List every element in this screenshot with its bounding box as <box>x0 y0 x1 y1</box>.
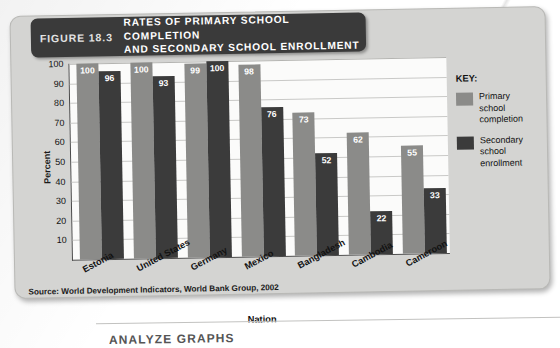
y-axis-tick: 60 <box>41 137 65 147</box>
legend-label: Secondary school enrollment <box>480 134 536 170</box>
bar-value-label: 96 <box>98 73 120 83</box>
legend-item: Primary school completion <box>456 90 535 126</box>
bar[interactable]: 98 <box>238 64 264 256</box>
bar-value-label: 22 <box>370 213 392 223</box>
legend-swatch <box>456 92 473 105</box>
bar-group: 6222 <box>346 58 394 255</box>
bar[interactable]: 73 <box>293 112 318 255</box>
y-axis-tick: 90 <box>40 79 64 89</box>
y-axis-tick-labels: 100908070605040302010 <box>35 64 67 261</box>
bars-layer: 1009610093991009876735262225533 <box>69 57 450 260</box>
bar-group: 7352 <box>292 59 340 256</box>
bar-value-label: 55 <box>401 148 423 158</box>
chart-legend: KEY: Primary school completionSecondary … <box>456 72 536 178</box>
figure-number: FIGURE 18.3 <box>40 31 113 44</box>
bar-value-label: 93 <box>152 78 174 88</box>
y-axis-tick: 30 <box>42 196 66 206</box>
bar-value-label: 98 <box>238 66 260 76</box>
bar-group: 10093 <box>130 62 178 259</box>
bar-value-label: 52 <box>315 155 337 165</box>
legend-items: Primary school completionSecondary schoo… <box>456 90 535 169</box>
bar-value-label: 100 <box>206 63 228 73</box>
bar-group: 99100 <box>184 61 232 258</box>
y-axis-tick: 50 <box>41 157 65 167</box>
figure-title: RATES OF PRIMARY SCHOOL COMPLETION AND S… <box>123 12 366 57</box>
y-axis-tick: 20 <box>42 216 66 226</box>
bar-group: 9876 <box>238 60 286 257</box>
bottom-caption: ANALYZE GRAPHS <box>109 331 235 348</box>
y-axis-tick: 40 <box>41 177 65 187</box>
bar-value-label: 99 <box>184 65 206 75</box>
figure-container: FIGURE 18.3 RATES OF PRIMARY SCHOOL COMP… <box>1 0 559 310</box>
figure-panel: FIGURE 18.3 RATES OF PRIMARY SCHOOL COMP… <box>9 6 550 299</box>
bar-value-label: 76 <box>261 109 283 119</box>
chart-area: Percent 100908070605040302010 1009610093… <box>23 50 537 294</box>
figure-title-line-1: RATES OF PRIMARY SCHOOL COMPLETION <box>123 14 289 42</box>
y-axis-tick: 70 <box>40 118 64 128</box>
bar[interactable]: 96 <box>98 71 123 260</box>
y-axis-tick: 10 <box>43 235 67 245</box>
legend-title: KEY: <box>456 72 534 83</box>
bar-value-label: 100 <box>130 64 152 74</box>
bar-group: 5533 <box>399 57 447 254</box>
y-axis-tick: 80 <box>40 98 64 108</box>
bar-value-label: 100 <box>76 65 98 75</box>
bar-value-label: 33 <box>424 190 446 200</box>
bar-group: 10096 <box>76 63 124 260</box>
bar-value-label: 73 <box>293 114 315 124</box>
bar[interactable]: 100 <box>206 61 232 257</box>
bar-value-label: 62 <box>347 135 369 145</box>
bar[interactable]: 93 <box>152 76 177 259</box>
figure-header-band: FIGURE 18.3 RATES OF PRIMARY SCHOOL COMP… <box>31 12 367 57</box>
bar[interactable]: 55 <box>401 146 425 254</box>
plot-area: 1009610093991009876735262225533 <box>68 57 450 261</box>
figure-title-line-2: AND SECONDARY SCHOOL ENROLLMENT <box>124 40 360 55</box>
legend-item: Secondary school enrollment <box>457 134 536 170</box>
legend-label: Primary school completion <box>479 90 535 126</box>
bar[interactable]: 76 <box>261 107 286 256</box>
bar[interactable]: 62 <box>347 133 371 255</box>
y-axis-tick: 100 <box>39 59 63 69</box>
legend-swatch <box>457 136 474 149</box>
